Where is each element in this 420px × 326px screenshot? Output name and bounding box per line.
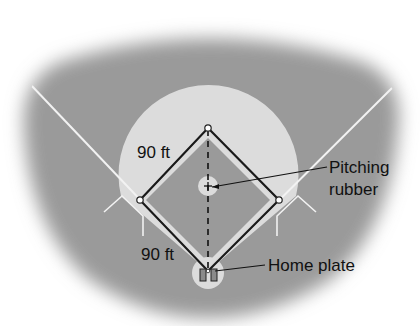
third-base bbox=[137, 197, 143, 203]
home-plate bbox=[206, 269, 210, 273]
home-plate-label: Home plate bbox=[268, 256, 355, 276]
bottom-side-length-label: 90 ft bbox=[141, 245, 174, 265]
pitching-rubber-label-line1: Pitching bbox=[329, 158, 389, 178]
left-batters-box bbox=[200, 269, 206, 281]
pitching-rubber-label-line2: rubber bbox=[329, 180, 378, 200]
second-base bbox=[205, 125, 211, 131]
first-base bbox=[276, 197, 282, 203]
top-side-length-label: 90 ft bbox=[137, 143, 170, 163]
